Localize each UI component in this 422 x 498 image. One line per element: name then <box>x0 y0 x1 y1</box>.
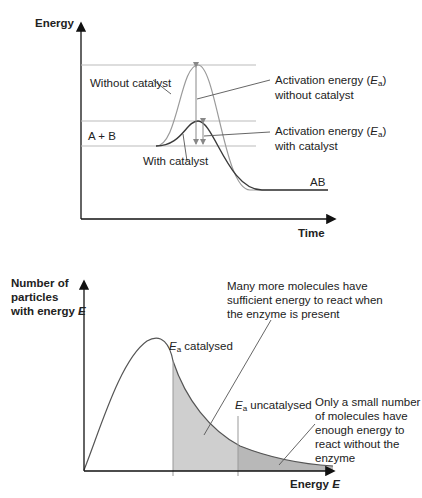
ea-with-label-line2: with catalyst <box>274 140 338 152</box>
note-few-line2: of molecules have <box>315 410 408 422</box>
note-few-line1: Only a small number <box>315 396 421 408</box>
ea-with-label-line1: Activation energy (Ea) <box>275 125 386 139</box>
ea-without-label-line2: without catalyst <box>274 89 354 101</box>
ea-catalysed-label: Ea catalysed <box>169 340 233 354</box>
energy-profile-chart: Energy Time Without catalyst A + B With … <box>35 17 386 239</box>
y-axis-label-line1: Number of <box>11 277 69 289</box>
note-many-line2: sufficient energy to react when <box>227 294 383 306</box>
energy-axis-label: Energy <box>35 17 75 29</box>
with-catalyst-label: With catalyst <box>143 155 209 167</box>
leader-small-number <box>279 424 315 465</box>
note-many-line1: Many more molecules have <box>227 280 368 292</box>
note-many-line3: the enzyme is present <box>227 308 340 320</box>
reactants-label: A + B <box>88 130 116 142</box>
note-few-line5: enzyme <box>315 452 355 464</box>
without-catalyst-label: Without catalyst <box>90 77 172 89</box>
y-axis-label-line3: with energy E <box>10 305 86 317</box>
diagram-canvas: Energy Time Without catalyst A + B With … <box>0 0 422 498</box>
ea-without-label-line1: Activation energy (Ea) <box>275 74 386 88</box>
leader-ea-with <box>204 132 270 136</box>
leader-ea-without <box>197 80 270 99</box>
energy-x-axis-label: Energy E <box>290 478 340 490</box>
note-few-line4: react without the <box>315 438 399 450</box>
boltzmann-distribution-chart: Number of particles with energy E Energy… <box>10 277 421 490</box>
ea-uncatalysed-label: Ea uncatalysed <box>235 399 312 413</box>
product-label: AB <box>310 176 326 188</box>
note-few-line3: enough energy to <box>315 424 405 436</box>
y-axis-label-line2: particles <box>11 291 58 303</box>
time-axis-label: Time <box>298 227 325 239</box>
